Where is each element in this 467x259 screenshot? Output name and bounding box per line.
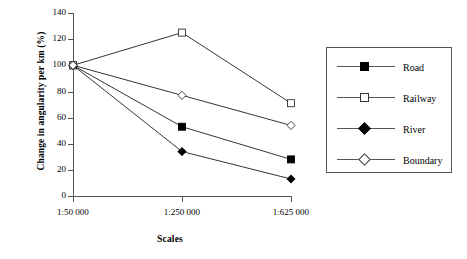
- legend-item-road[interactable]: Road: [327, 55, 453, 79]
- legend-sample-river: [335, 121, 397, 137]
- legend-item-river[interactable]: River: [327, 117, 453, 141]
- legend-sample-boundary: [335, 152, 397, 168]
- data-point-road-2: [288, 156, 295, 163]
- data-point-road-1: [179, 123, 186, 130]
- data-point-river-1: [178, 147, 186, 155]
- legend-label-road: Road: [403, 62, 424, 73]
- diamond-filled-marker-icon: [358, 122, 371, 135]
- series-line-road: [73, 65, 291, 159]
- square-filled-marker-icon: [360, 62, 369, 71]
- legend-sample-railway: [335, 90, 397, 106]
- data-point-river-2: [287, 175, 295, 183]
- legend-label-railway: Railway: [403, 93, 436, 104]
- chart-figure: 140 120 100 80 60 40 20 0 1:50 000 1:250…: [0, 0, 467, 259]
- legend: Road Railway River Boundary: [326, 47, 452, 173]
- data-point-boundary-1: [178, 91, 186, 99]
- legend-sample-road: [335, 59, 397, 75]
- data-point-boundary-2: [287, 121, 295, 129]
- data-point-railway-2: [288, 100, 295, 107]
- data-point-railway-1: [179, 29, 186, 36]
- legend-label-river: River: [403, 124, 425, 135]
- legend-item-railway[interactable]: Railway: [327, 86, 453, 110]
- legend-label-boundary: Boundary: [403, 155, 442, 166]
- diamond-open-marker-icon: [358, 153, 371, 166]
- legend-item-boundary[interactable]: Boundary: [327, 148, 453, 172]
- square-open-marker-icon: [360, 93, 369, 102]
